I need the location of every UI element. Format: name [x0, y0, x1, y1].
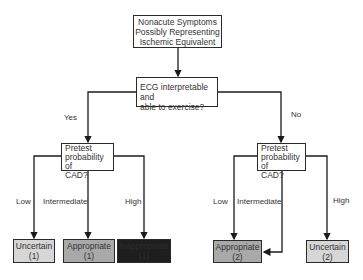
right-pretest-line-2: probability of [261, 153, 302, 171]
outcome-inappropriate-1: Inappropriate (1) [117, 239, 171, 263]
root-line-3: Ischemic Equivalent [134, 37, 221, 47]
outcome-label: Inappropriate [118, 241, 170, 251]
no-branch-label: No [291, 110, 301, 119]
root-line-2: Possibly Representing [134, 27, 221, 37]
ecg-decision-box: ECG interpretable and able to exercise? [136, 77, 218, 107]
outcome-label: Uncertain [14, 241, 54, 251]
right-low-label: Low [213, 197, 228, 206]
outcome-appropriate-2: Appropriate (2) [213, 240, 262, 263]
outcome-score: (1) [118, 251, 170, 261]
left-low-label: Low [16, 197, 31, 206]
outcome-appropriate-1: Appropriate (1) [63, 239, 115, 263]
right-pretest-box: Pretest probability of CAD? [257, 143, 306, 171]
outcome-label: Uncertain [307, 242, 348, 252]
left-intermediate-label: Intermediate [43, 197, 87, 206]
root-line-1: Nonacute Symptoms [134, 17, 221, 27]
outcome-uncertain-1: Uncertain (1) [13, 239, 55, 263]
left-high-label: High [125, 197, 141, 206]
outcome-label: Appropriate [214, 242, 261, 252]
left-pretest-line-3: CAD? [65, 171, 110, 180]
yes-branch-label: Yes [64, 113, 77, 122]
right-pretest-line-3: CAD? [261, 171, 302, 180]
outcome-uncertain-2: Uncertain (2) [306, 240, 349, 263]
ecg-line-2: able to exercise? [140, 102, 214, 112]
right-intermediate-label: Intermediate [237, 197, 281, 206]
right-high-label: High [333, 196, 349, 205]
outcome-score: (1) [14, 251, 54, 261]
outcome-score: (2) [214, 252, 261, 262]
ecg-line-1: ECG interpretable and [140, 82, 214, 102]
left-pretest-box: Pretest probability of CAD? [61, 143, 114, 171]
outcome-score: (1) [64, 251, 114, 261]
outcome-label: Appropriate [64, 241, 114, 251]
root-symptoms-box: Nonacute Symptoms Possibly Representing … [133, 15, 222, 48]
outcome-score: (2) [307, 252, 348, 262]
left-pretest-line-2: probability of [65, 153, 110, 171]
